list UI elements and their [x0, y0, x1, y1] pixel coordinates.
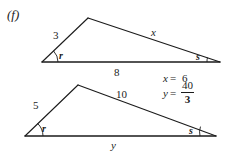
lower-triangle-left-side-label: 5	[33, 100, 39, 111]
upper-triangle-angle-s-label: s	[196, 52, 200, 62]
lower-triangle-right-side	[78, 85, 216, 136]
lower-triangle-base-label: y	[111, 140, 116, 151]
lower-triangle-angle-s-label: s	[189, 126, 193, 136]
upper-triangle-left-side	[42, 18, 88, 62]
answer-y-denominator: 3	[185, 94, 191, 105]
answer-row-y: y = 40 3	[163, 85, 194, 100]
lower-triangle-angle-r-label: r	[42, 124, 46, 134]
upper-triangle-angle-r-arc	[54, 51, 58, 62]
answer-y-fraction: 40 3	[181, 80, 194, 105]
lower-triangle-right-side-label: 10	[116, 89, 127, 100]
upper-triangle-base-label: 8	[114, 67, 120, 78]
answer-x-variable: x	[163, 72, 168, 84]
answer-y-variable: y	[163, 87, 168, 99]
upper-triangle-right-side-label: x	[151, 27, 156, 38]
upper-triangle	[42, 18, 220, 62]
answer-block: x = 6 y = 40 3	[163, 70, 194, 100]
answer-y-numerator: 40	[181, 80, 194, 91]
figure-panel: (f) 3 x 8 r s 5 10 y r s x = 6 y = 40 3	[0, 0, 227, 157]
upper-triangle-right-side	[88, 18, 220, 62]
upper-triangle-angle-s-arc	[207, 58, 208, 62]
answer-y-equals: =	[170, 87, 176, 99]
part-label: (f)	[7, 8, 19, 21]
answer-x-equals: =	[170, 72, 176, 84]
lower-triangle-angle-s-arc	[200, 127, 201, 136]
upper-triangle-angle-r-label: r	[59, 51, 63, 61]
upper-triangle-left-side-label: 3	[53, 30, 59, 41]
